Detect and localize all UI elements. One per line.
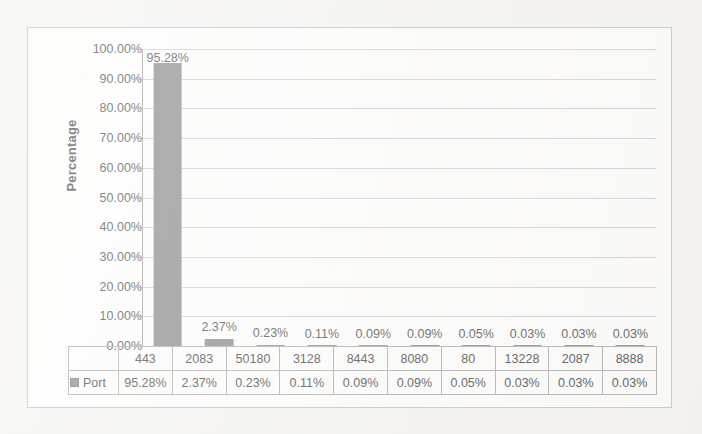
y-axis-tick-labels: 0.00%10.00%20.00%30.00%40.00%50.00%60.00…: [64, 42, 142, 346]
y-axis-tick-mark: [137, 257, 142, 258]
bar-slot: 2.37%: [193, 49, 244, 346]
y-axis-tick-label: 20.00%: [64, 280, 142, 294]
y-axis-tick-label: 100.00%: [64, 42, 142, 56]
table-cell-category: 443: [119, 347, 173, 371]
bar-slot: 95.28%: [142, 49, 193, 346]
table-cell-category: 13228: [495, 347, 549, 371]
bar-value-label: 0.03%: [613, 327, 648, 341]
table-cell-category: 2083: [172, 347, 226, 371]
bar-series: 95.28%2.37%0.23%0.11%0.09%0.09%0.05%0.03…: [142, 49, 656, 346]
table-cell-value: 95.28%: [119, 371, 173, 395]
table-cell-value: 2.37%: [172, 371, 226, 395]
y-axis-tick-mark: [137, 49, 142, 50]
legend-swatch-icon: [70, 378, 79, 387]
plot-area: 95.28%2.37%0.23%0.11%0.09%0.09%0.05%0.03…: [142, 49, 656, 346]
y-axis-tick-label: 30.00%: [64, 250, 142, 264]
y-axis-tick-mark: [137, 138, 142, 139]
bar-value-label: 2.37%: [201, 320, 236, 334]
y-axis-tick-label: 80.00%: [64, 101, 142, 115]
bar[interactable]: [153, 63, 182, 346]
bar-value-label: 0.11%: [305, 327, 340, 341]
y-axis-tick-mark: [137, 108, 142, 109]
y-axis-tick-mark: [137, 168, 142, 169]
bar-value-label: 95.28%: [147, 51, 189, 65]
bar[interactable]: [205, 339, 234, 346]
table-cell-category: 80: [441, 347, 495, 371]
bar-value-label: 0.03%: [561, 327, 596, 341]
table-cell-category: 8443: [334, 347, 388, 371]
y-axis-tick-label: 70.00%: [64, 131, 142, 145]
table-cell-value: 0.03%: [495, 371, 549, 395]
table-row-categories: 443208350180312884438080801322820878888: [69, 347, 657, 371]
bar-value-label: 0.03%: [510, 327, 545, 341]
y-axis-tick-label: 40.00%: [64, 220, 142, 234]
y-axis-tick-mark: [137, 198, 142, 199]
y-axis-tick-label: 60.00%: [64, 161, 142, 175]
table-cell-value: 0.09%: [334, 371, 388, 395]
y-axis-tick-mark: [137, 79, 142, 80]
table-cell-value: 0.11%: [280, 371, 334, 395]
bar-slot: 0.09%: [348, 49, 399, 346]
bar-value-label: 0.09%: [356, 327, 391, 341]
y-axis-tick-label: 90.00%: [64, 72, 142, 86]
y-axis-tick-mark: [137, 316, 142, 317]
legend-entry: Port: [69, 371, 119, 395]
table-cell-value: 0.05%: [441, 371, 495, 395]
bar-slot: 0.05%: [450, 49, 501, 346]
table-cell-category: 50180: [226, 347, 280, 371]
bar-value-label: 0.23%: [253, 326, 288, 340]
chart-frame: Percentage 0.00%10.00%20.00%30.00%40.00%…: [27, 27, 672, 408]
bar-value-label: 0.05%: [458, 327, 493, 341]
bar-slot: 0.03%: [605, 49, 656, 346]
table-cell-category: 8888: [603, 347, 657, 371]
y-axis-tick-label: 10.00%: [64, 309, 142, 323]
table-cell-value: 0.03%: [549, 371, 603, 395]
table-row-values: Port 95.28%2.37%0.23%0.11%0.09%0.09%0.05…: [69, 371, 657, 395]
legend-series-label: Port: [83, 376, 106, 390]
bar-value-label: 0.09%: [407, 327, 442, 341]
table-cell-value: 0.09%: [387, 371, 441, 395]
table-cell-category: 8080: [387, 347, 441, 371]
bar-slot: 0.23%: [245, 49, 296, 346]
y-axis-tick-mark: [137, 287, 142, 288]
data-table: 443208350180312884438080801322820878888 …: [68, 346, 657, 395]
y-axis-tick-mark: [137, 227, 142, 228]
y-axis-tick-label: 50.00%: [64, 191, 142, 205]
bar-slot: 0.11%: [296, 49, 347, 346]
table-cell-category: 3128: [280, 347, 334, 371]
table-cell-value: 0.03%: [603, 371, 657, 395]
bar-slot: 0.03%: [502, 49, 553, 346]
table-cell-value: 0.23%: [226, 371, 280, 395]
bar-slot: 0.03%: [553, 49, 604, 346]
table-corner-cell: [69, 347, 119, 371]
bar-slot: 0.09%: [399, 49, 450, 346]
table-cell-category: 2087: [549, 347, 603, 371]
